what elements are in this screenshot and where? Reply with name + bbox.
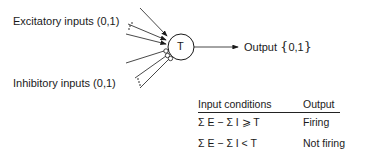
table-row: Σ E − Σ I < T Not firing xyxy=(198,137,358,149)
firing-conditions-table: Input conditions Output Σ E − Σ I ⩾ T Fi… xyxy=(198,98,358,149)
condition-cell: Σ E − Σ I < T xyxy=(198,137,303,149)
output-label: Output {0,1} xyxy=(244,39,312,54)
condition-cell: Σ E − Σ I ⩾ T xyxy=(198,116,303,128)
output-cell: Not firing xyxy=(303,137,358,149)
excitatory-input-lines xyxy=(126,8,167,44)
inhibitory-inputs-label: Inhibitory inputs (0,1) xyxy=(13,77,116,89)
output-values: 0,1 xyxy=(288,41,303,53)
excitatory-inputs-label: Excitatory inputs (0,1) xyxy=(13,15,119,27)
brace-close: } xyxy=(304,39,312,54)
table-header-row: Input conditions Output xyxy=(198,98,340,113)
header-output: Output xyxy=(303,98,340,110)
neuron-threshold-label: T xyxy=(177,40,184,52)
output-text: Output xyxy=(244,41,277,53)
inhibitory-input-lines xyxy=(126,49,173,88)
inhibitory-ellipsis-icon xyxy=(137,78,141,86)
output-cell: Firing xyxy=(303,116,358,128)
table-row: Σ E − Σ I ⩾ T Firing xyxy=(198,116,358,128)
header-input-conditions: Input conditions xyxy=(198,98,303,110)
